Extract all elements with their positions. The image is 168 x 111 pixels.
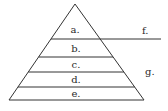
pyramid-diagram: a. b. c. d. e. f. g. <box>0 0 168 111</box>
side-label-f: f. <box>142 25 149 36</box>
level-label-d: d. <box>71 74 81 85</box>
level-label-c: c. <box>72 59 81 70</box>
level-label-a: a. <box>70 24 79 35</box>
level-label-b: b. <box>71 43 81 54</box>
level-label-e: e. <box>71 88 80 99</box>
side-label-g: g. <box>145 66 155 77</box>
